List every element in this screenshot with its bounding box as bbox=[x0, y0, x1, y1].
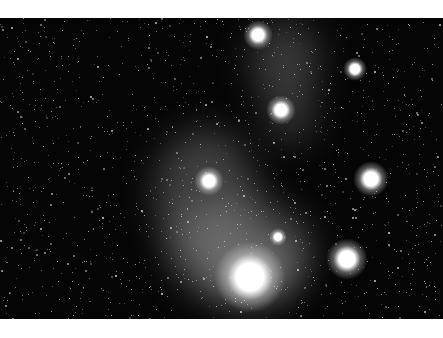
nebula-photo bbox=[0, 18, 443, 319]
bright-star bbox=[269, 228, 287, 246]
bright-star bbox=[194, 166, 224, 196]
bright-star bbox=[266, 95, 296, 125]
bright-star bbox=[214, 241, 286, 313]
bright-star bbox=[343, 57, 367, 81]
bright-star bbox=[243, 20, 273, 50]
bright-star bbox=[326, 238, 368, 280]
bright-star bbox=[353, 161, 389, 197]
